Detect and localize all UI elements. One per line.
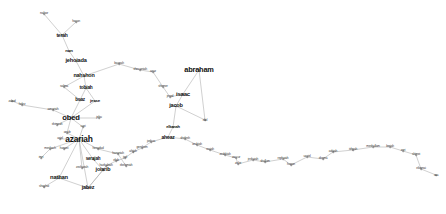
graph-node-label-tobiah[interactable]: tobiah [79, 86, 92, 91]
graph-node-label-shelesh[interactable]: shelesh [180, 137, 190, 140]
graph-node-label-nahshon[interactable]: nahshon [73, 73, 94, 78]
graph-node-label-nathan[interactable]: nathan [50, 175, 68, 181]
graph-node-label-terah[interactable]: terah [56, 33, 67, 38]
graph-node-label-azaz[interactable]: azaz [150, 70, 156, 73]
graph-node-label-zeri[interactable]: zeri [401, 149, 405, 152]
graph-node-label-zaccur[interactable]: zaccur [232, 156, 240, 159]
graph-node-label-eliel[interactable]: eliel [203, 119, 207, 122]
graph-node-label-elkanah[interactable]: elkanah [166, 125, 180, 129]
graph-node-label-boaz[interactable]: boaz [75, 98, 85, 103]
graph-node-label-zabad[interactable]: zabad [8, 100, 15, 103]
graph-node-label-imri[interactable]: imri [39, 156, 43, 159]
graph-node-label-hanan[interactable]: hanan [287, 163, 295, 166]
graph-node-label-zechariah[interactable]: zechariah [76, 166, 88, 169]
graph-edge [79, 139, 88, 188]
graph-node-label-henadad[interactable]: henadad [92, 147, 103, 150]
graph-node-label-asiel[interactable]: asiel [57, 137, 63, 140]
graph-node-label-serajah[interactable]: serajah [86, 157, 101, 162]
graph-node-label-abraham[interactable]: abraham [184, 66, 213, 73]
graph-node-label-ahoaz[interactable]: ahoaz [161, 135, 174, 140]
genealogy-network-graph: nahorharanterahnunjehoiadanahshonsalmato… [0, 0, 446, 214]
graph-node-label-shelemiah[interactable]: shelemiah [120, 164, 133, 167]
graph-node-label-adaiah[interactable]: adaiah [329, 150, 337, 153]
graph-node-label-hanani[interactable]: hanani [60, 147, 68, 150]
graph-node-label-nun[interactable]: nun [65, 49, 72, 53]
graph-node-label-elioenai[interactable]: elioenai [416, 167, 425, 170]
graph-node-label-meshach[interactable]: meshach [44, 147, 56, 150]
graph-node-label-obed[interactable]: obed [62, 114, 79, 122]
graph-node-label-uzzi[interactable]: uzzi [81, 125, 86, 128]
graph-node-label-shemer[interactable]: shemer [158, 85, 167, 88]
graph-node-label-shaphat[interactable]: shaphat [39, 185, 49, 188]
graph-node-label-uzziel[interactable]: uzziel [304, 155, 311, 158]
graph-node-label-zichri[interactable]: zichri [235, 162, 241, 165]
graph-node-label-hashabiah[interactable]: hashabiah [100, 164, 113, 167]
graph-node-label-salma[interactable]: salma [60, 85, 68, 88]
graph-node-label-rephaiah[interactable]: rephaiah [278, 157, 289, 160]
graph-edge [199, 70, 205, 120]
graph-node-label-jacob[interactable]: jacob [169, 103, 183, 109]
graph-node-label-eliab[interactable]: eliab [113, 159, 119, 162]
graph-node-label-azariah[interactable]: azariah [65, 135, 92, 143]
graph-node-label-shimeah[interactable]: shimeah [52, 123, 63, 126]
graph-node-label-shema[interactable]: shema [319, 157, 328, 160]
graph-node-label-jabez[interactable]: jabez [82, 185, 94, 190]
graph-node-label-baanah[interactable]: baanah [114, 62, 123, 65]
graph-node-label-haran[interactable]: haran [72, 20, 80, 23]
graph-node-label-izrahiah[interactable]: izrahiah [192, 143, 202, 146]
graph-node-label-jehoiada[interactable]: jehoiada [65, 58, 86, 64]
graph-node-label-beriah[interactable]: beriah [386, 145, 394, 148]
graph-node-label-asa[interactable]: asa [434, 174, 438, 177]
graph-node-label-nahor[interactable]: nahor [40, 12, 48, 16]
graph-node-label-joel[interactable]: joel [123, 156, 127, 159]
graph-node-label-isaac[interactable]: isaac [176, 91, 190, 97]
graph-node-label-shallum[interactable]: shallum [260, 160, 270, 163]
graph-node-label-jeshaiah[interactable]: jeshaiah [248, 158, 258, 161]
graph-node-label-gershom[interactable]: gershom [136, 146, 147, 149]
graph-node-label-ahijah[interactable]: ahijah [129, 150, 136, 153]
graph-node-label-meshullam[interactable]: meshullam [366, 145, 380, 148]
graph-node-label-shecaniah[interactable]: shecaniah [133, 68, 147, 71]
graph-node-label-jesse[interactable]: jesse [90, 99, 100, 103]
graph-node-label-shimei[interactable]: shimei [412, 153, 420, 156]
graph-node-label-jered[interactable]: jered [167, 95, 174, 98]
graph-node-label-joshua[interactable]: joshua [147, 140, 155, 143]
graph-node-label-reaiah[interactable]: reaiah [206, 148, 214, 151]
graph-node-label-ishpah[interactable]: ishpah [349, 148, 357, 151]
graph-node-label-helez[interactable]: helez [19, 103, 26, 106]
graph-node-label-joiarib[interactable]: joiarib [96, 167, 111, 172]
graph-node-label-zedekiah[interactable]: zedekiah [219, 153, 230, 156]
graph-node-label-amariah[interactable]: amariah [48, 108, 59, 111]
graph-node-label-jehu[interactable]: jehu [96, 116, 102, 119]
